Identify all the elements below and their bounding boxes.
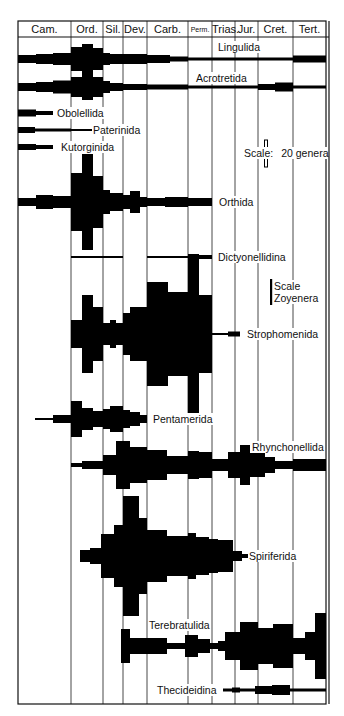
taxon-label-dictyonellidina: Dictyonellidina — [217, 251, 287, 263]
period-label-sil: Sil. — [103, 22, 123, 37]
period-label-perm: Perm. — [188, 22, 212, 37]
period-label-jur: Jur. — [235, 22, 258, 37]
taxon-label-pentamerida: Pentamerida — [152, 413, 214, 425]
period-label-carb: Carb. — [147, 22, 188, 37]
taxon-label-orthida: Orthida — [218, 196, 254, 208]
spindle-acrotretida — [18, 74, 326, 100]
spindle-thecideidina — [223, 685, 326, 695]
taxon-label-kutorginida: Kutorginida — [60, 141, 115, 153]
spindle-lingulida — [18, 44, 326, 74]
taxon-label-terebratulida: Terebratulida — [148, 619, 211, 631]
brachiopod-spindle-diagram — [0, 0, 344, 716]
scale-prefix: Scale: — [244, 147, 273, 159]
period-label-tert: Tert. — [293, 22, 326, 37]
period-label-trias: Trias. — [212, 22, 235, 37]
scale-label-2: ScaleZoyenera — [274, 280, 318, 304]
scale-bar-2 — [270, 279, 272, 305]
spindle-pentamerida — [35, 401, 147, 437]
scale-label-1: Scale:20 genera — [244, 147, 328, 159]
taxon-label-obolellida: Obolellida — [56, 107, 105, 119]
period-label-cret: Cret. — [258, 22, 293, 37]
taxon-label-strophomenida: Strophomenida — [246, 328, 319, 340]
spindle-spiriferida — [80, 496, 248, 616]
taxon-label-rhynchonellida: Rhynchonellida — [251, 441, 325, 453]
taxon-label-acrotretida: Acrotretida — [195, 72, 248, 84]
scale-value: Zoyenera — [274, 292, 318, 304]
spindle-orthida — [18, 154, 212, 250]
spindle-obolellida — [18, 110, 53, 117]
scale-prefix: Scale — [274, 280, 318, 292]
taxon-label-lingulida: Lingulida — [217, 41, 261, 53]
spindle-paterinida — [18, 127, 92, 133]
period-label-dev: Dev. — [123, 22, 147, 37]
taxon-label-spiriferida: Spiriferida — [248, 550, 297, 562]
period-label-cam: Cam. — [18, 22, 71, 37]
period-label-ord: Ord. — [71, 22, 103, 37]
scale-value: 20 genera — [281, 147, 328, 159]
spindle-kutorginida — [18, 144, 53, 150]
taxon-label-paterinida: Paterinida — [92, 124, 141, 136]
taxon-label-thecideidina: Thecideidina — [156, 684, 218, 696]
